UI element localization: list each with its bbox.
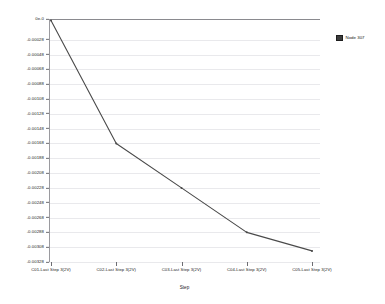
gridline (49, 262, 320, 263)
y-axis-tick: -0.00228 (27, 186, 49, 190)
y-axis-tick-label: -0.00268 (27, 215, 44, 219)
y-axis-tick-label: -0.00148 (27, 126, 44, 130)
data-point (181, 187, 183, 189)
x-axis-tick-mark (51, 262, 52, 266)
y-axis-tick-label: -0.00088 (27, 82, 44, 86)
x-axis-tick-mark (116, 262, 117, 266)
x-axis-tick-mark (247, 262, 248, 266)
y-axis-tick-label: -0.00048 (27, 52, 44, 56)
y-axis-tick-label: -0.00248 (27, 201, 44, 205)
y-axis-tick-label: -0.00208 (27, 171, 44, 175)
y-axis-tick: -0.00068 (27, 67, 49, 71)
y-axis-tick: -0.00208 (27, 171, 49, 175)
x-axis-tick-label: C05-Last Step 3(2V) (292, 268, 332, 272)
data-point (246, 231, 248, 233)
y-axis-tick: -0.00188 (27, 156, 49, 160)
y-axis-tick-label: -0.00128 (27, 112, 44, 116)
x-axis-tick-mark (312, 262, 313, 266)
y-axis-tick: -0.00248 (27, 201, 49, 205)
legend: Node 307 (336, 35, 365, 41)
y-axis-tick-label: -0.00068 (27, 67, 44, 71)
x-axis-tick-mark (182, 262, 183, 266)
series-line-group (49, 19, 320, 262)
y-axis-tick-label: -0.00188 (27, 156, 44, 160)
data-point (50, 19, 52, 21)
y-axis-tick-label: -0.00028 (27, 38, 44, 42)
y-axis-tick-label: -0.00308 (27, 245, 44, 249)
x-axis-title: Step (49, 286, 320, 291)
y-axis-tick: -0.00148 (27, 126, 49, 130)
y-axis-tick: -0.00108 (27, 97, 49, 101)
y-axis-tick-label: -0.00288 (27, 230, 44, 234)
y-axis-tick: -0.00288 (27, 230, 49, 234)
y-axis-tick: -0.00048 (27, 52, 49, 56)
chart-container: 0e-0-0.00028-0.00048-0.00068-0.00088-0.0… (0, 0, 385, 304)
y-axis-tick-label: -0.00108 (27, 97, 44, 101)
data-point (115, 142, 117, 144)
y-axis-tick: -0.00308 (27, 245, 49, 249)
y-axis-tick-label: -0.00168 (27, 141, 44, 145)
series-line-node-307 (51, 20, 312, 250)
x-axis-tick-label: C01-Last Step 3(2V) (31, 268, 71, 272)
y-axis-tick: -0.00088 (27, 82, 49, 86)
plot-area: 0e-0-0.00028-0.00048-0.00068-0.00088-0.0… (49, 19, 320, 262)
y-axis-tick: -0.00128 (27, 112, 49, 116)
y-axis-tick: -0.00328 (27, 260, 49, 264)
y-axis-tick: -0.00168 (27, 141, 49, 145)
data-point (311, 250, 313, 252)
x-axis-tick-label: C03-Last Step 3(2V) (162, 268, 202, 272)
y-axis-tick-label: -0.00228 (27, 186, 44, 190)
legend-label-node-307: Node 307 (346, 36, 365, 40)
y-axis-tick-label: -0.00328 (27, 260, 44, 264)
legend-swatch-node-307 (336, 35, 343, 41)
y-axis-tick: 0e-0 (35, 17, 49, 21)
y-axis-tick-label: 0e-0 (35, 17, 44, 21)
x-axis-tick-label: C04-Last Step 3(2V) (227, 268, 267, 272)
y-axis-tick: -0.00268 (27, 215, 49, 219)
x-axis-tick-label: C02-Last Step 3(2V) (96, 268, 136, 272)
y-axis-tick: -0.00028 (27, 38, 49, 42)
